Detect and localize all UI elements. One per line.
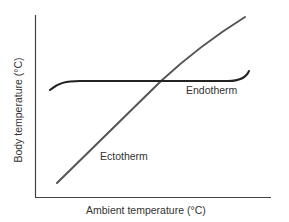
ectotherm-label: Ectotherm (100, 151, 148, 162)
x-axis-label: Ambient temperature (°C) (86, 205, 206, 216)
y-axis-label: Body temperature (°C) (13, 57, 24, 162)
plot-area (0, 0, 289, 222)
endotherm-label: Endotherm (186, 85, 237, 96)
ectotherm-line (57, 17, 245, 183)
chart-canvas: Endotherm Ectotherm Ambient temperature … (0, 0, 289, 222)
